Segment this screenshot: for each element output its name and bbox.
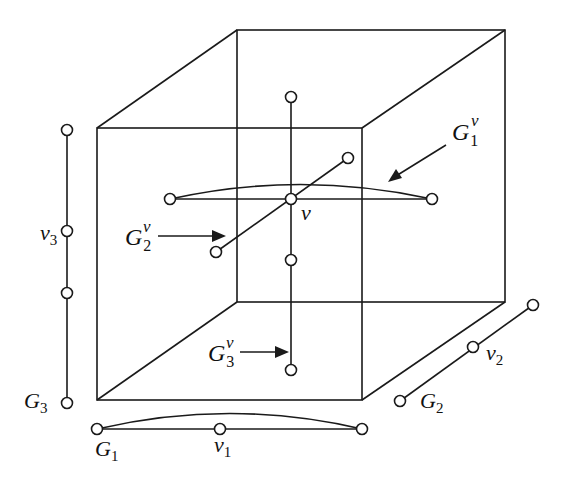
node-g3v-top [286,92,297,103]
label-v3: v3 [40,220,57,248]
node-g3v-mid [286,255,297,266]
node-g2-3 [528,300,539,311]
arrowhead-g2v [212,230,226,242]
node-g3-1 [62,125,73,136]
factor-graph-g1 [97,414,362,430]
node-g1-3 [357,424,368,435]
node-g2-1 [395,396,406,407]
arrow-g1v [396,145,446,176]
label-g2v-sup: v [143,217,151,236]
node-g1v-left [165,194,176,205]
arrowhead-g1v [388,169,402,182]
label-g3v-sup: v [226,333,234,352]
node-g2v-low [211,247,222,258]
product-graph-diagram: v3 G3 G1 v1 v2 G2 v G1 v G2 v G3 v [0,0,566,487]
fiber-g2v [216,158,348,252]
node-g1v-right [427,194,438,205]
label-v2: v2 [486,340,503,368]
node-g3-4 [62,398,73,409]
node-g3-3 [62,288,73,299]
node-g2-v2 [468,342,479,353]
label-g2: G2 [420,388,443,416]
cube-edge-top-right [362,30,505,128]
label-g3: G3 [24,388,47,416]
factor-graph-g2 [400,305,533,401]
label-v1: v1 [214,432,231,460]
node-g3-v3 [62,226,73,237]
node-v [286,194,297,205]
cube-edge-bottom-right [362,302,505,400]
node-g1-1 [92,424,103,435]
label-g1: G1 [95,436,118,464]
label-g1v-sup: v [471,111,479,130]
arrowhead-g3v [275,346,289,358]
label-v: v [301,200,311,225]
cube-edge-top-left [97,30,237,128]
node-g2v-high [343,153,354,164]
cube-back-face [237,30,505,302]
node-g3v-bottom [286,365,297,376]
